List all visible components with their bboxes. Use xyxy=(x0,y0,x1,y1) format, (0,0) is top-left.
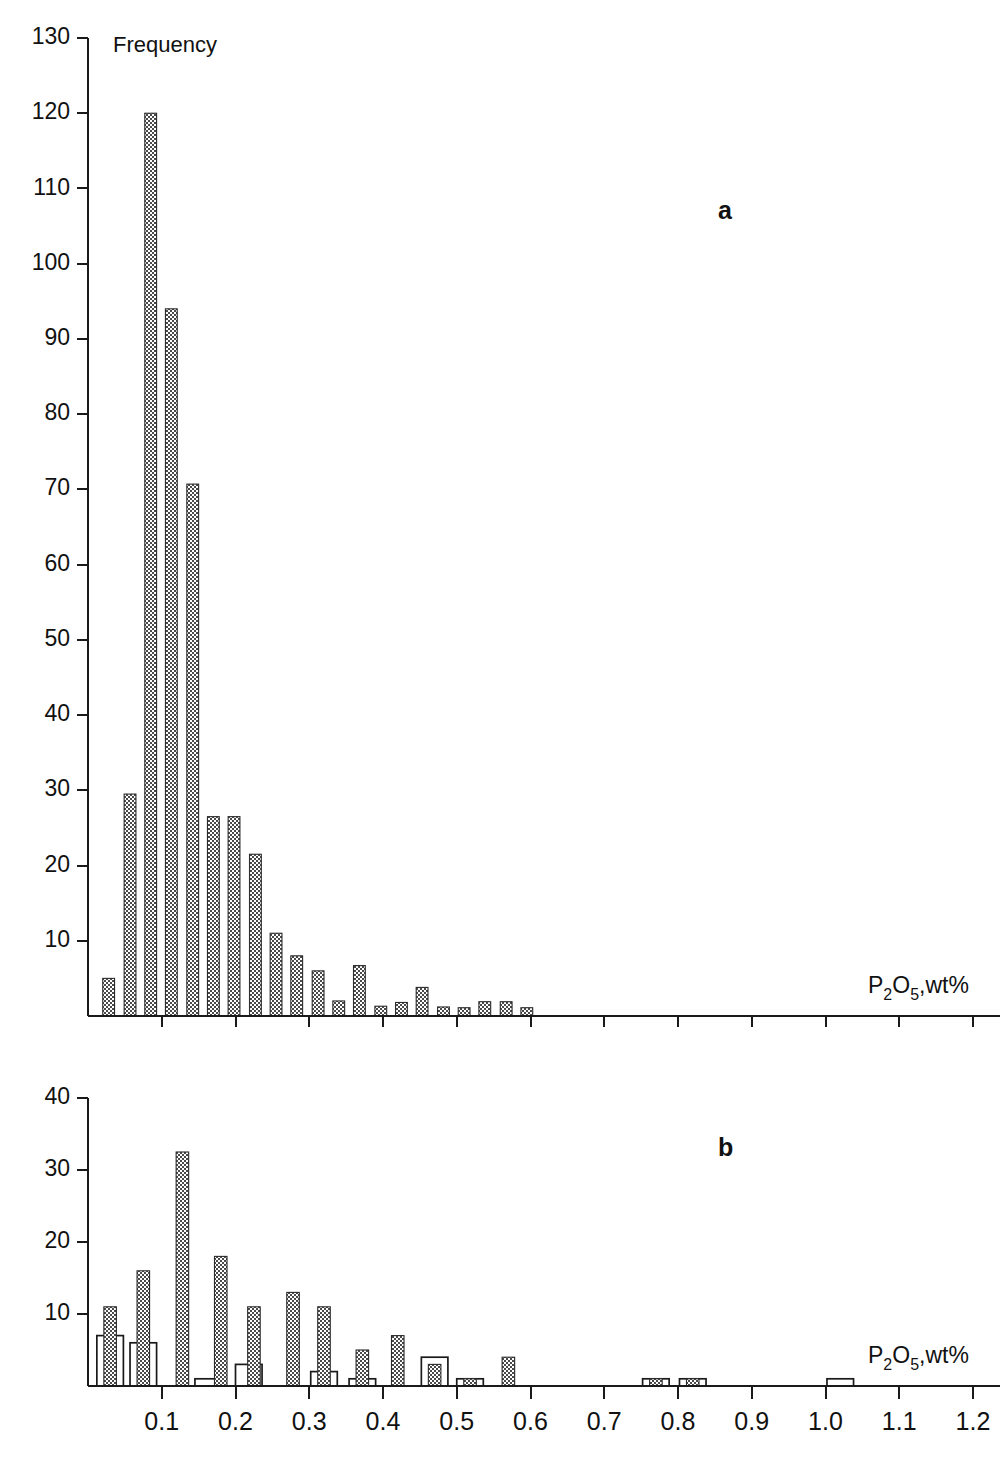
y-tick-label: 60 xyxy=(44,550,70,576)
bar-panel-b-gray xyxy=(464,1379,477,1386)
y-tick-label: 120 xyxy=(32,98,70,124)
x-tick-label: 0.1 xyxy=(144,1407,179,1435)
bar-panel-a xyxy=(396,1002,408,1016)
bar-panel-a xyxy=(103,978,115,1016)
axis-title-O: O xyxy=(892,1342,910,1368)
histogram-figure: Frequency a 1020304050607080901001101201… xyxy=(0,0,1008,1457)
x-tick-label: 0.9 xyxy=(734,1407,769,1435)
y-tick-label: 20 xyxy=(44,851,70,877)
bar-panel-a xyxy=(438,1007,450,1016)
bar-panel-b-gray xyxy=(176,1152,189,1386)
bar-panel-b-gray xyxy=(214,1256,227,1386)
axis-title-tail: ,wt% xyxy=(919,1342,969,1368)
bar-panel-a xyxy=(250,854,262,1016)
axis-title-P: P xyxy=(868,1342,883,1368)
y-tick-label: 30 xyxy=(44,775,70,801)
bar-panel-a xyxy=(207,817,219,1016)
bar-panel-b-gray xyxy=(318,1307,331,1386)
bar-panel-a xyxy=(187,484,199,1016)
bar-panel-b-gray xyxy=(248,1307,261,1386)
y-tick-label: 110 xyxy=(33,174,70,200)
bar-panel-a xyxy=(291,956,303,1016)
bar-panel-b-gray xyxy=(391,1336,404,1386)
y-tick-label: 40 xyxy=(44,1083,70,1109)
bar-panel-a xyxy=(354,966,366,1016)
panel-a-letter: a xyxy=(718,196,733,224)
bar-panel-a xyxy=(145,113,157,1016)
bar-panel-a xyxy=(228,817,240,1016)
bar-panel-a xyxy=(312,971,324,1016)
axis-title-5: 5 xyxy=(910,986,919,1003)
y-tick-label: 40 xyxy=(44,700,70,726)
frequency-caption: Frequency xyxy=(113,32,217,57)
y-tick-label: 80 xyxy=(44,399,70,425)
bar-panel-a xyxy=(124,794,136,1016)
bar-panel-a xyxy=(500,1002,512,1016)
y-tick-label: 30 xyxy=(44,1155,70,1181)
axis-title-2: 2 xyxy=(883,986,892,1003)
bar-panel-b-gray xyxy=(356,1350,369,1386)
x-tick-label: 0.4 xyxy=(366,1407,401,1435)
x-tick-label: 1.0 xyxy=(808,1407,843,1435)
bar-panel-b-gray xyxy=(137,1271,150,1386)
axis-title-5: 5 xyxy=(910,1356,919,1373)
bar-panel-a xyxy=(375,1006,387,1016)
axis-title-2: 2 xyxy=(883,1356,892,1373)
y-tick-label: 20 xyxy=(44,1227,70,1253)
bar-panel-a xyxy=(416,987,428,1016)
y-tick-label: 70 xyxy=(44,474,70,500)
x-tick-label: 1.2 xyxy=(956,1407,991,1435)
bar-panel-a xyxy=(270,933,282,1016)
y-tick-label: 90 xyxy=(44,324,70,350)
bar-panel-b-gray xyxy=(104,1307,117,1386)
axis-title-P: P xyxy=(868,972,883,998)
x-tick-label: 0.8 xyxy=(661,1407,696,1435)
x-tick-label: 0.7 xyxy=(587,1407,622,1435)
bar-panel-b-gray xyxy=(428,1364,441,1386)
panel-b-letter: b xyxy=(718,1133,733,1161)
bar-panel-b-gray xyxy=(287,1292,300,1386)
y-tick-label: 100 xyxy=(32,249,70,275)
x-tick-label: 0.6 xyxy=(513,1407,548,1435)
y-tick-label: 50 xyxy=(44,625,70,651)
y-tick-label: 130 xyxy=(32,23,70,49)
bar-panel-b-gray xyxy=(650,1379,663,1386)
bar-panel-b-gray xyxy=(686,1379,699,1386)
bar-panel-b-gray xyxy=(502,1357,515,1386)
axis-title-tail: ,wt% xyxy=(919,972,969,998)
x-tick-label: 0.2 xyxy=(218,1407,253,1435)
x-tick-label: 1.1 xyxy=(882,1407,917,1435)
x-tick-label: 0.5 xyxy=(439,1407,474,1435)
bar-panel-a xyxy=(479,1002,491,1016)
figure-container: Frequency a 1020304050607080901001101201… xyxy=(0,0,1008,1457)
bar-panel-a xyxy=(165,309,177,1016)
x-tick-label: 0.3 xyxy=(292,1407,327,1435)
axis-title-O: O xyxy=(892,972,910,998)
bar-panel-b-open xyxy=(827,1379,854,1386)
bar-panel-a xyxy=(333,1001,345,1016)
y-tick-label: 10 xyxy=(44,926,70,952)
y-tick-label: 10 xyxy=(44,1299,70,1325)
bar-panel-a xyxy=(458,1008,470,1016)
bar-panel-a xyxy=(521,1008,533,1016)
